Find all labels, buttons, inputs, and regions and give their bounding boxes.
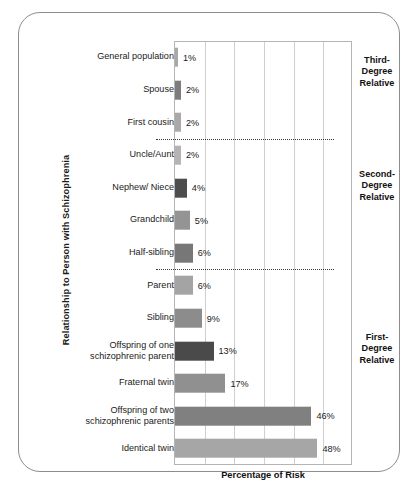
bar — [175, 113, 181, 132]
bar — [175, 243, 193, 262]
bar-category-label: General population — [54, 52, 174, 63]
bar-container: 46% — [175, 400, 335, 433]
bar — [175, 341, 214, 360]
bar-container: 48% — [175, 432, 341, 465]
bar — [175, 146, 181, 165]
bar-container: 1% — [175, 41, 196, 74]
bar-value-label: 2% — [186, 150, 199, 160]
bar-row: Fraternal twin17% — [19, 367, 413, 400]
bar-category-label: Uncle/Aunt — [54, 150, 174, 161]
bar-row: Offspring of two schizophrenic parents46… — [19, 400, 413, 433]
bar-row: First cousin2% — [19, 106, 413, 139]
bar-category-label: Parent — [54, 280, 174, 291]
bar-container: 17% — [175, 367, 249, 400]
bar-value-label: 1% — [183, 52, 196, 62]
bar-category-label: Identical twin — [54, 443, 174, 454]
bar — [175, 48, 178, 67]
bar-container: 2% — [175, 74, 199, 107]
bar — [175, 80, 181, 99]
bar-row: Identical twin48% — [19, 432, 413, 465]
bar-value-label: 48% — [322, 444, 340, 454]
bar-category-label: First cousin — [54, 117, 174, 128]
bar-container: 13% — [175, 335, 237, 368]
bar-category-label: Spouse — [54, 84, 174, 95]
bar-value-label: 6% — [198, 248, 211, 258]
bar — [175, 211, 190, 230]
bar-category-label: Offspring of two schizophrenic parents — [54, 405, 174, 427]
chart-card: Relationship to Person with Schizophreni… — [18, 12, 400, 472]
bar-category-label: Sibling — [54, 313, 174, 324]
group-separator — [156, 269, 334, 270]
degree-group-label: First- Degree Relative — [346, 332, 408, 367]
bar — [175, 407, 311, 426]
bar-container: 9% — [175, 302, 220, 335]
bar-row: Grandchild5% — [19, 204, 413, 237]
bar-container: 6% — [175, 269, 211, 302]
bar — [175, 439, 317, 458]
bar-value-label: 4% — [192, 183, 205, 193]
bar-container: 2% — [175, 106, 199, 139]
bar-row: Sibling9% — [19, 302, 413, 335]
bar — [175, 178, 187, 197]
bar-value-label: 6% — [198, 281, 211, 291]
bar-container: 4% — [175, 171, 205, 204]
bar-category-label: Nephew/ Niece — [54, 182, 174, 193]
bar — [175, 276, 193, 295]
bar-container: 5% — [175, 204, 208, 237]
bar-value-label: 46% — [316, 411, 334, 421]
group-separator — [156, 139, 334, 140]
bar-value-label: 5% — [195, 215, 208, 225]
bar-value-label: 17% — [230, 378, 248, 388]
x-axis-title: Percentage of Risk — [174, 470, 352, 480]
bar-value-label: 13% — [219, 346, 237, 356]
bar-value-label: 2% — [186, 85, 199, 95]
bar-container: 6% — [175, 237, 211, 270]
bar-value-label: 9% — [207, 313, 220, 323]
bar-row: Half-sibling6% — [19, 237, 413, 270]
bar-row: Uncle/Aunt2% — [19, 139, 413, 172]
bar — [175, 309, 202, 328]
bar-value-label: 2% — [186, 118, 199, 128]
bar-container: 2% — [175, 139, 199, 172]
bar-category-label: Offspring of one schizophrenic parent — [54, 340, 174, 362]
bar-category-label: Half-sibling — [54, 247, 174, 258]
bar-category-label: Fraternal twin — [54, 378, 174, 389]
bar-rows: General population1%Spouse2%First cousin… — [19, 41, 413, 465]
bar — [175, 374, 225, 393]
bar-category-label: Grandchild — [54, 215, 174, 226]
degree-group-label: Third- Degree Relative — [346, 55, 408, 90]
degree-group-label: Second- Degree Relative — [346, 169, 408, 204]
bar-row: Parent6% — [19, 269, 413, 302]
